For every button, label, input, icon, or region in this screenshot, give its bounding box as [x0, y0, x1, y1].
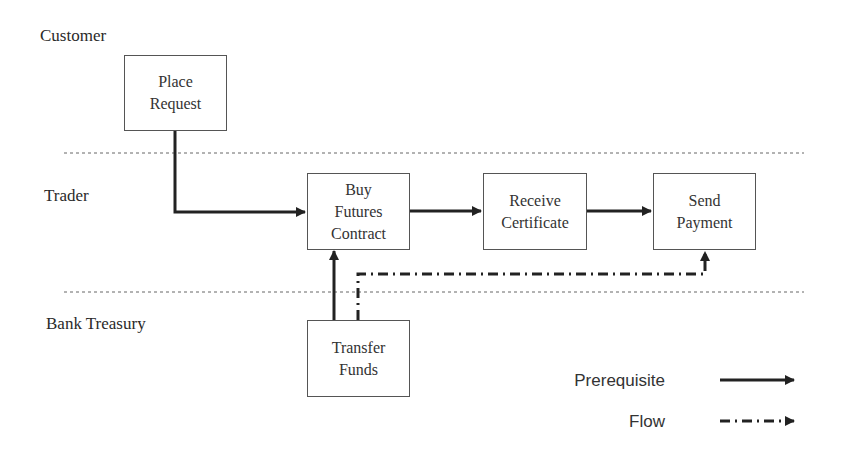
activity-text-line: Place — [158, 71, 193, 93]
activity-text-line: Request — [150, 93, 202, 115]
arrow-place-request-to-buy-futures — [175, 130, 305, 212]
activity-text-line: Send — [689, 190, 721, 212]
activity-text-line: Transfer — [332, 337, 386, 359]
legend-prerequisite-label: Prerequisite — [574, 371, 665, 391]
legend-flow-label: Flow — [629, 412, 665, 432]
activity-send-payment: Send Payment — [653, 173, 756, 250]
activity-text-line: Certificate — [501, 212, 569, 234]
activity-text-line: Receive — [509, 190, 561, 212]
activity-receive-certificate: Receive Certificate — [483, 173, 587, 250]
activity-text-line: Futures — [335, 201, 383, 223]
activity-place-request: Place Request — [124, 55, 227, 131]
activity-transfer-funds: Transfer Funds — [307, 320, 410, 397]
arrow-transfer-funds-to-send-payment-flow — [358, 252, 705, 320]
activity-text-line: Payment — [677, 212, 733, 234]
activity-text-line: Funds — [339, 359, 378, 381]
activity-text-line: Buy — [345, 179, 372, 201]
activity-text-line: Contract — [331, 223, 386, 245]
activity-buy-futures-contract: Buy Futures Contract — [307, 173, 410, 250]
